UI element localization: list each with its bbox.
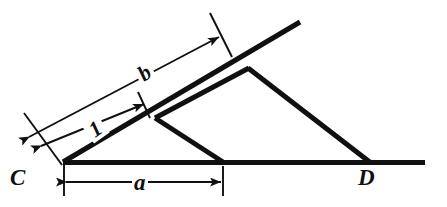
figure-canvas — [0, 0, 447, 207]
inner-triangle-right-side — [155, 118, 223, 162]
outer-triangle-left-side — [155, 68, 249, 118]
vertex-label-d: D — [358, 166, 375, 189]
dimension-label-a: a — [132, 171, 148, 194]
geometry-figure: C D a b 1 — [0, 0, 447, 207]
vertex-label-c: C — [10, 166, 25, 189]
dimension-b — [24, 13, 232, 165]
outer-triangle-right-side — [248, 68, 371, 163]
construction-lines — [63, 22, 425, 163]
dimension-b-tick-right — [210, 13, 232, 57]
